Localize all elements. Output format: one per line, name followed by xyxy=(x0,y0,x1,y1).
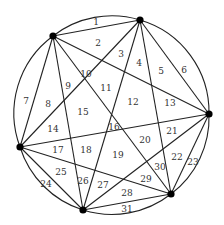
region-label: 2 xyxy=(95,38,101,48)
region-label: 4 xyxy=(136,58,142,68)
region-label: 6 xyxy=(181,65,187,75)
region-label: 19 xyxy=(112,150,124,160)
region-label: 22 xyxy=(171,152,182,162)
region-label: 11 xyxy=(100,83,111,93)
region-label: 17 xyxy=(52,145,64,155)
vertex-point xyxy=(79,206,86,213)
region-label: 27 xyxy=(97,180,109,190)
region-label: 24 xyxy=(40,179,52,189)
region-label: 5 xyxy=(158,66,164,76)
vertex-point xyxy=(49,32,56,39)
region-label: 7 xyxy=(23,96,29,106)
region-label: 30 xyxy=(154,162,166,172)
region-label: 8 xyxy=(45,99,51,109)
vertex-point xyxy=(16,143,23,150)
region-label: 29 xyxy=(140,174,152,184)
region-label: 28 xyxy=(121,188,133,198)
region-label: 15 xyxy=(77,107,89,117)
region-label: 10 xyxy=(80,69,92,79)
region-label: 13 xyxy=(164,98,176,108)
region-label: 20 xyxy=(139,135,151,145)
region-label: 21 xyxy=(166,126,177,136)
region-label: 25 xyxy=(55,167,67,177)
region-label: 26 xyxy=(77,176,89,186)
region-label: 1 xyxy=(93,17,99,27)
region-label: 23 xyxy=(187,157,199,167)
region-label: 9 xyxy=(65,81,71,91)
region-label: 14 xyxy=(47,124,59,134)
vertex-point xyxy=(167,190,174,197)
vertex-point xyxy=(136,16,143,23)
region-label: 31 xyxy=(121,204,132,214)
circle-chord-diagram: 1234567891011121314151617181920212223242… xyxy=(0,0,224,225)
region-label: 12 xyxy=(127,97,138,107)
region-label: 3 xyxy=(118,49,124,59)
region-label: 18 xyxy=(80,145,92,155)
vertex-point xyxy=(205,110,212,117)
region-label: 16 xyxy=(108,122,120,132)
